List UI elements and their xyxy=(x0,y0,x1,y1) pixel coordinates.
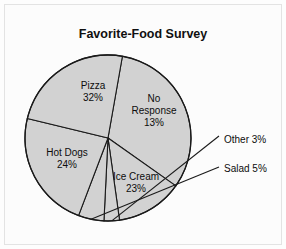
slice-label-salad: Salad 5% xyxy=(224,163,267,174)
slice-label-pizza: Pizza xyxy=(81,80,106,91)
slice-label-other: Other 3% xyxy=(224,134,266,145)
slice-value-no-response: 13% xyxy=(144,117,164,128)
chart-figure: Favorite-Food Survey Pizza 32% No Respon… xyxy=(0,0,286,249)
slice-label-ice-cream: Ice Cream xyxy=(113,171,159,182)
slice-label-hot-dogs: Hot Dogs xyxy=(46,147,88,158)
slice-value-hot-dogs: 24% xyxy=(57,159,77,170)
slice-value-pizza: 32% xyxy=(83,92,103,103)
slice-label-no-response-line2: Response xyxy=(131,105,176,116)
pie-slices-rendered xyxy=(25,55,191,221)
pie-chart: Favorite-Food Survey Pizza 32% No Respon… xyxy=(0,0,286,249)
chart-title: Favorite-Food Survey xyxy=(79,27,208,41)
slice-label-no-response-line1: No xyxy=(148,93,161,104)
slice-value-ice-cream: 23% xyxy=(126,183,146,194)
